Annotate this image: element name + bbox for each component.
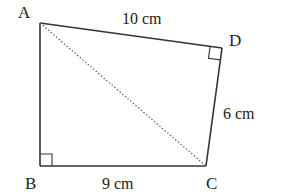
vertex-label-C: C xyxy=(206,174,217,193)
vertex-label-D: D xyxy=(229,31,241,50)
quadrilateral-diagram: A D B C 10 cm 6 cm 9 cm xyxy=(0,0,283,195)
length-label-BC: 9 cm xyxy=(102,175,134,192)
length-label-DC: 6 cm xyxy=(223,105,255,122)
side-CD xyxy=(206,48,222,166)
right-angle-marker-B xyxy=(40,154,52,166)
diagonal-AC xyxy=(40,23,206,166)
right-angle-marker-D xyxy=(209,46,221,60)
vertex-label-B: B xyxy=(25,174,36,193)
vertex-label-A: A xyxy=(18,3,31,22)
length-label-AD: 10 cm xyxy=(122,10,162,27)
